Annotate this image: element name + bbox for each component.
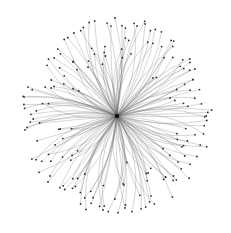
- leaf-node: [24, 107, 26, 109]
- leaf-node: [88, 60, 90, 62]
- leaf-node: [103, 205, 105, 207]
- radial-network-diagram: [0, 0, 231, 233]
- leaf-node: [150, 30, 152, 32]
- leaf-node: [50, 79, 52, 81]
- leaf-node: [133, 22, 135, 24]
- leaf-node: [189, 89, 191, 91]
- leaf-node: [145, 173, 147, 175]
- leaf-node: [188, 177, 190, 179]
- leaf-node: [196, 156, 198, 158]
- leaf-node: [64, 189, 66, 191]
- leaf-node: [125, 204, 127, 206]
- leaf-node: [161, 31, 163, 33]
- leaf-node: [169, 154, 171, 156]
- leaf-node: [176, 139, 178, 141]
- leaf-node: [78, 90, 80, 92]
- leaf-node: [163, 179, 165, 181]
- leaf-node: [105, 55, 107, 57]
- leaf-node: [58, 128, 60, 130]
- leaf-node: [62, 185, 64, 187]
- leaf-node: [170, 40, 172, 42]
- leaf-node: [206, 120, 208, 122]
- leaf-node: [54, 144, 56, 146]
- leaf-node: [126, 162, 128, 164]
- leaf-node: [150, 195, 152, 197]
- leaf-node: [139, 194, 141, 196]
- leaf-node: [183, 145, 185, 147]
- leaf-node: [117, 212, 119, 214]
- leaf-node: [128, 40, 130, 42]
- leaf-node: [70, 159, 72, 161]
- leaf-node: [180, 168, 182, 170]
- leaf-node: [189, 58, 191, 60]
- leaf-node: [131, 211, 133, 213]
- leaf-node: [123, 184, 125, 186]
- leaf-node: [80, 30, 82, 32]
- leaf-node: [194, 68, 196, 70]
- leaf-node: [80, 203, 82, 205]
- leaf-node: [63, 75, 65, 77]
- leaf-node: [206, 146, 208, 148]
- leaf-node: [50, 87, 52, 89]
- leaf-node: [29, 121, 31, 123]
- edge: [117, 59, 190, 116]
- leaf-node: [163, 57, 165, 59]
- leaf-node: [165, 176, 167, 178]
- leaf-node: [183, 68, 185, 70]
- leaf-node: [84, 197, 86, 199]
- leaf-node: [187, 105, 189, 107]
- leaf-node: [147, 172, 149, 174]
- leaf-node: [150, 167, 152, 169]
- leaf-node: [35, 110, 37, 112]
- leaf-node: [211, 109, 213, 111]
- leaf-node: [121, 48, 123, 50]
- leaf-node: [199, 89, 201, 91]
- leaf-node: [47, 181, 49, 183]
- leaf-node: [48, 58, 50, 60]
- leaf-node: [175, 179, 177, 181]
- leaf-node: [106, 22, 108, 24]
- leaf-node: [154, 29, 156, 31]
- leaf-node: [57, 48, 59, 50]
- leaf-node: [94, 53, 96, 55]
- leaf-node: [46, 64, 48, 66]
- leaf-node: [71, 128, 73, 130]
- leaf-node: [76, 69, 78, 71]
- leaf-node: [50, 160, 52, 162]
- leaf-node: [87, 66, 89, 68]
- leaf-node: [31, 158, 33, 160]
- leaf-node: [26, 127, 28, 129]
- leaf-node: [177, 161, 179, 163]
- leaf-node: [199, 144, 201, 146]
- leaf-node: [72, 88, 74, 90]
- leaf-node: [41, 160, 43, 162]
- leaf-node: [192, 78, 194, 80]
- leaf-node: [203, 133, 205, 135]
- leaf-node: [31, 89, 33, 91]
- leaf-node: [99, 206, 101, 208]
- leaf-node: [201, 103, 203, 105]
- leaf-node: [42, 103, 44, 105]
- leaf-node: [102, 209, 104, 211]
- leaf-node: [91, 47, 93, 49]
- leaf-node: [122, 57, 124, 59]
- leaf-node: [85, 209, 87, 211]
- leaf-node: [84, 173, 86, 175]
- leaf-node: [146, 180, 148, 182]
- leaf-node: [203, 125, 205, 127]
- leaf-node: [172, 196, 174, 198]
- leaf-node: [62, 138, 64, 140]
- leaf-node: [136, 25, 138, 27]
- leaf-node: [110, 25, 112, 27]
- leaf-node: [125, 37, 127, 39]
- leaf-node: [124, 207, 126, 209]
- leaf-node: [71, 155, 73, 157]
- leaf-node: [102, 63, 104, 65]
- leaf-node: [181, 146, 183, 148]
- leaf-node: [174, 100, 176, 102]
- leaf-node: [49, 175, 51, 177]
- leaf-node: [173, 40, 175, 42]
- leaf-node: [207, 112, 209, 114]
- leaf-node: [189, 69, 191, 71]
- leaf-node: [176, 133, 178, 135]
